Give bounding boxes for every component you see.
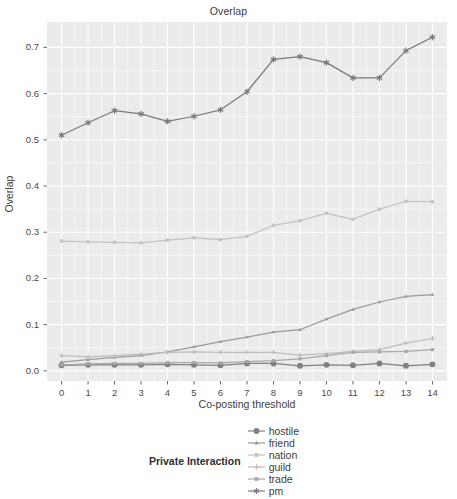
chart-legend: Private Interaction hostilefriendnationg…	[0, 425, 457, 497]
legend-label-friend: friend	[269, 437, 295, 449]
legend-key-marker	[253, 428, 259, 434]
legend-item-friend[interactable]: friend	[248, 437, 299, 449]
x-tick-label: 7	[236, 387, 258, 398]
legend-key-marker	[253, 464, 259, 470]
legend-marker-guild-icon	[248, 461, 265, 473]
series-marker-nation	[192, 236, 195, 239]
series-marker-hostile	[429, 361, 435, 367]
y-tick-label: 0.1	[5, 319, 39, 330]
series-marker-trade	[431, 348, 434, 351]
series-marker-hostile	[377, 360, 383, 366]
y-tick-label: 0.7	[5, 41, 39, 52]
series-marker-nation	[113, 241, 116, 244]
series-marker-trade	[325, 354, 328, 357]
legend-title: Private Interaction	[149, 455, 241, 467]
series-marker-trade	[113, 362, 116, 365]
series-marker-nation	[60, 239, 63, 242]
legend-marker-nation-icon	[248, 449, 265, 461]
series-marker-trade	[245, 360, 248, 363]
legend-key-svg	[248, 425, 265, 437]
x-tick-label: 3	[130, 387, 152, 398]
x-tick-label: 5	[183, 387, 205, 398]
legend-item-pm[interactable]: pm	[248, 485, 299, 497]
series-marker-trade	[192, 361, 195, 364]
x-tick-label: 9	[289, 387, 311, 398]
x-tick-label: 13	[395, 387, 417, 398]
series-marker-trade	[404, 350, 407, 353]
series-marker-trade	[378, 350, 381, 353]
x-tick-label: 12	[368, 387, 390, 398]
series-marker-nation	[378, 207, 381, 210]
legend-key-svg	[248, 461, 265, 473]
series-marker-nation	[351, 218, 354, 221]
legend-label-nation: nation	[269, 449, 298, 461]
series-marker-nation	[139, 241, 142, 244]
legend-item-guild[interactable]: guild	[248, 461, 299, 473]
legend-label-guild: guild	[269, 461, 291, 473]
series-marker-nation	[272, 224, 275, 227]
y-tick-label: 0.4	[5, 180, 39, 191]
series-marker-trade	[298, 357, 301, 360]
y-tick-label: 0.3	[5, 226, 39, 237]
x-tick-label: 4	[157, 387, 179, 398]
series-marker-nation	[86, 240, 89, 243]
x-tick-label: 0	[51, 387, 73, 398]
series-marker-trade	[219, 361, 222, 364]
legend-label-trade: trade	[269, 473, 293, 485]
series-marker-nation	[404, 200, 407, 203]
legend-key-marker	[254, 477, 258, 481]
series-marker-nation	[166, 238, 169, 241]
x-tick-label: 1	[77, 387, 99, 398]
legend-item-nation[interactable]: nation	[248, 449, 299, 461]
y-tick-label: 0.6	[5, 88, 39, 99]
legend-item-hostile[interactable]: hostile	[248, 425, 299, 437]
x-tick-label: 6	[210, 387, 232, 398]
legend-marker-hostile-icon	[248, 425, 265, 437]
series-marker-trade	[351, 351, 354, 354]
legend-key-svg	[248, 485, 265, 497]
series-marker-hostile	[324, 362, 330, 368]
series-marker-trade	[139, 362, 142, 365]
legend-marker-trade-icon	[248, 473, 265, 485]
legend-item-trade[interactable]: trade	[248, 473, 299, 485]
series-marker-hostile	[297, 363, 303, 369]
x-tick-label: 2	[104, 387, 126, 398]
x-tick-label: 11	[342, 387, 364, 398]
legend-items: hostilefriendnationguildtradepm	[248, 425, 308, 497]
legend-key-marker	[254, 453, 258, 457]
legend-marker-friend-icon	[248, 437, 265, 449]
series-marker-hostile	[350, 362, 356, 368]
y-tick-label: 0.5	[5, 134, 39, 145]
series-marker-nation	[245, 235, 248, 238]
series-marker-trade	[166, 361, 169, 364]
legend-key-svg	[248, 473, 265, 485]
series-marker-trade	[60, 363, 63, 366]
series-marker-nation	[431, 200, 434, 203]
y-tick-label: 0.0	[5, 365, 39, 376]
series-marker-nation	[325, 212, 328, 215]
series-marker-nation	[219, 238, 222, 241]
legend-marker-pm-icon	[248, 485, 265, 497]
x-tick-label: 8	[262, 387, 284, 398]
series-marker-hostile	[403, 363, 409, 369]
x-tick-label: 14	[421, 387, 443, 398]
y-tick-label: 0.2	[5, 272, 39, 283]
series-marker-nation	[298, 219, 301, 222]
legend-label-pm: pm	[269, 485, 284, 497]
legend-key-svg	[248, 449, 265, 461]
x-tick-label: 10	[315, 387, 337, 398]
legend-key-svg	[248, 437, 265, 449]
series-marker-trade	[86, 362, 89, 365]
legend-label-hostile: hostile	[269, 425, 299, 437]
series-marker-trade	[272, 359, 275, 362]
